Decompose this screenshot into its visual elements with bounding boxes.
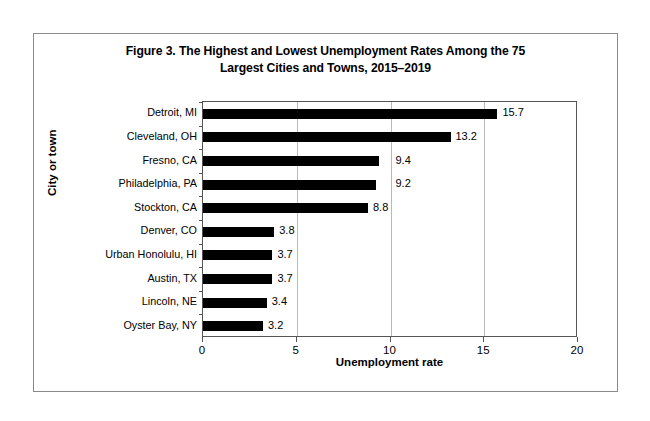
x-axis-tick (202, 337, 203, 342)
bar-value-label: 3.7 (277, 249, 292, 260)
y-axis-category-label: Urban Honolulu, HI (37, 249, 197, 260)
bar-value-label: 9.4 (396, 155, 411, 166)
x-axis-title: Unemployment rate (202, 356, 577, 368)
y-axis-category-labels: Detroit, MICleveland, OHFresno, CAPhilad… (37, 101, 197, 337)
bar (203, 180, 376, 190)
x-axis-tick-label: 0 (199, 344, 205, 356)
y-axis-tick (199, 196, 203, 197)
bar (203, 203, 368, 213)
y-axis-tick (199, 244, 203, 245)
bar (203, 156, 379, 166)
x-axis-tick-label: 5 (293, 344, 299, 356)
y-axis-tick (199, 126, 203, 127)
y-axis-tick (199, 173, 203, 174)
y-axis-category-label: Stockton, CA (37, 202, 197, 213)
y-axis-tick (199, 267, 203, 268)
x-axis-title-label: Unemployment rate (336, 356, 443, 368)
bar-value-label: 8.8 (373, 202, 388, 213)
y-axis-category-label: Cleveland, OH (37, 131, 197, 142)
chart-title-line-1: Figure 3. The Highest and Lowest Unemplo… (33, 43, 618, 60)
chart-title-line-2: Largest Cities and Towns, 2015–2019 (33, 60, 618, 77)
x-axis-tick-label: 10 (383, 344, 396, 356)
y-axis-tick (199, 220, 203, 221)
bar-value-label: 3.7 (277, 273, 292, 284)
bar-value-label: 3.4 (272, 296, 287, 307)
y-axis-category-label: Fresno, CA (37, 155, 197, 166)
y-axis-category-label: Detroit, MI (37, 107, 197, 118)
x-axis-tick (577, 337, 578, 342)
x-axis-tick-label: 20 (571, 344, 584, 356)
bar (203, 274, 272, 284)
bar-value-label: 9.2 (396, 178, 411, 189)
bar (203, 298, 267, 308)
y-axis-category-label: Austin, TX (37, 273, 197, 284)
bar (203, 321, 263, 331)
y-axis-tick (199, 291, 203, 292)
bar (203, 250, 272, 260)
plot-area (202, 101, 577, 337)
y-axis-tick (199, 102, 203, 103)
bar (203, 227, 274, 237)
bar-value-label: 3.8 (279, 225, 294, 236)
bar (203, 109, 497, 119)
bar-value-label: 15.7 (502, 107, 523, 118)
y-axis-category-label: Denver, CO (37, 225, 197, 236)
y-axis-tick (199, 149, 203, 150)
y-axis-category-label: Lincoln, NE (37, 296, 197, 307)
x-axis-tick (390, 337, 391, 342)
bar (203, 132, 451, 142)
y-axis-tick (199, 314, 203, 315)
chart-title: Figure 3. The Highest and Lowest Unemplo… (33, 43, 618, 77)
x-axis-tick (483, 337, 484, 342)
x-axis-tick (296, 337, 297, 342)
y-axis-category-label: Philadelphia, PA (37, 178, 197, 189)
y-axis-category-label: Oyster Bay, NY (37, 320, 197, 331)
bars-layer (203, 102, 576, 336)
x-axis-tick-label: 15 (477, 344, 490, 356)
bar-value-label: 13.2 (456, 131, 477, 142)
bar-value-label: 3.2 (268, 320, 283, 331)
